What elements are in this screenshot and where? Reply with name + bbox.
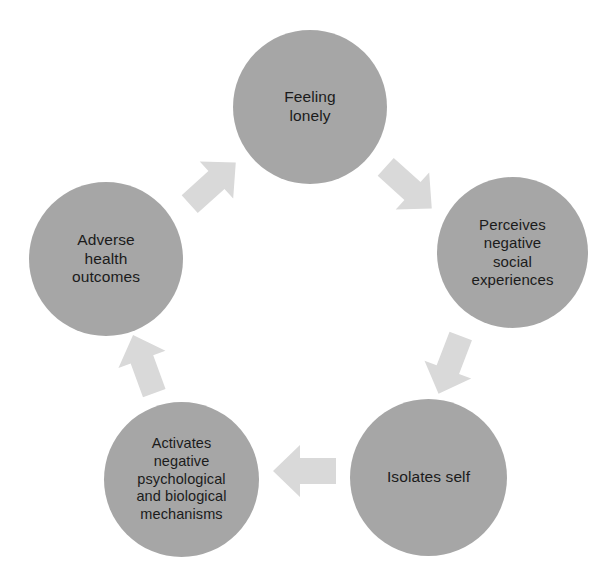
node-feeling-lonely-label: Feeling lonely (278, 88, 342, 126)
node-adverse-health-outcomes: Adverse health outcomes (29, 182, 183, 336)
node-feeling-lonely: Feeling lonely (233, 30, 387, 184)
arrow-activates-to-adverse-icon (110, 326, 178, 401)
cycle-diagram: Feeling lonely Perceives negative social… (0, 0, 612, 587)
arrow-lonely-to-perceives-icon (369, 148, 449, 227)
node-activates-negative-mechanisms: Activates negative psychological and bio… (104, 402, 259, 557)
node-activates-negative-mechanisms-label: Activates negative psychological and bio… (130, 435, 232, 523)
node-isolates-self: Isolates self (350, 399, 507, 556)
arrow-isolates-to-activates-icon (273, 445, 336, 497)
node-adverse-health-outcomes-label: Adverse health outcomes (66, 231, 146, 288)
arrow-perceives-to-isolates-icon (415, 327, 484, 403)
node-perceives-negative-social-experiences-label: Perceives negative social experiences (466, 216, 560, 289)
node-isolates-self-label: Isolates self (381, 468, 476, 487)
node-perceives-negative-social-experiences: Perceives negative social experiences (437, 177, 588, 328)
arrow-adverse-to-lonely-icon (173, 144, 253, 223)
